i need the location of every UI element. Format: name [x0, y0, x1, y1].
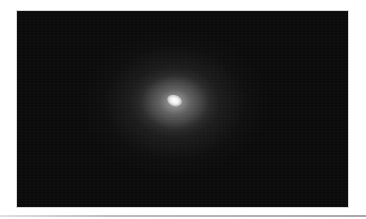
bottom-divider — [0, 215, 366, 217]
astronomical-photo — [17, 11, 348, 207]
image-noise — [17, 11, 348, 207]
